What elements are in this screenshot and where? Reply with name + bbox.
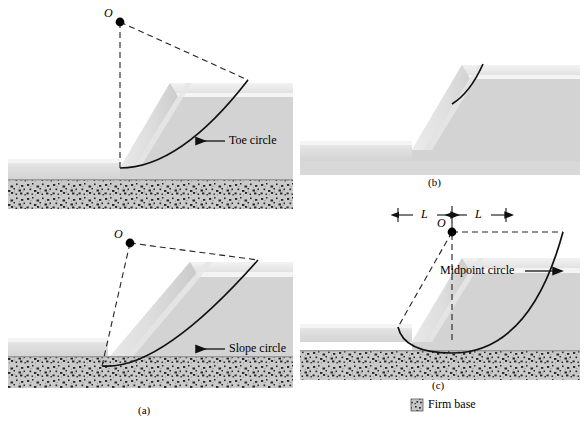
panel-b-caption: (b) <box>428 176 441 188</box>
firm-base-top-edge-a <box>8 356 293 357</box>
firm-base-layer-a <box>8 356 293 388</box>
midpoint-circle-label: Midpoint circle <box>440 263 514 278</box>
ground-band-highlight <box>8 159 120 163</box>
ground-band-highlight-b <box>300 141 412 145</box>
center-point-label-a: O <box>114 227 123 242</box>
panel-c-caption: (c) <box>432 379 444 391</box>
legend-firm-base <box>411 399 423 411</box>
slope-circle-label: Slope circle <box>229 341 286 356</box>
center-point-dot <box>116 18 125 27</box>
firm-base-swatch-icon <box>411 399 423 411</box>
dimension-label-L1: L <box>421 207 428 222</box>
slope-failure-figure <box>0 0 587 434</box>
legend-label: Firm base <box>428 397 476 412</box>
page-text-remnant <box>0 425 587 434</box>
ground-band-highlight-a <box>8 338 108 342</box>
firm-base-layer <box>8 179 293 209</box>
toe-circle-label: Toe circle <box>229 133 276 148</box>
lower-ground-b <box>300 161 580 175</box>
center-point-label-toe: O <box>104 6 113 21</box>
firm-base-top-edge-c <box>300 350 580 351</box>
firm-base-layer-c <box>300 350 580 380</box>
center-point-dot-c <box>448 228 457 237</box>
panel-a-caption: (a) <box>138 404 150 416</box>
dimension-label-L2: L <box>475 207 482 222</box>
ground-band-highlight-c <box>300 324 412 328</box>
center-point-dot-a <box>126 239 135 248</box>
embankment-crest-highlight-b <box>468 75 580 79</box>
center-point-label-c: O <box>437 216 446 231</box>
firm-base-top-edge <box>8 179 293 180</box>
